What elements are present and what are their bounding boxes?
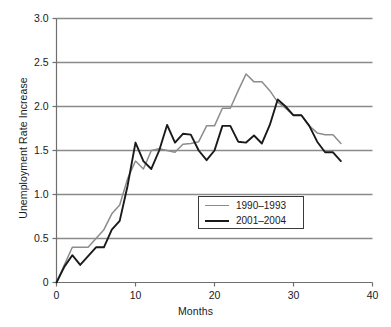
y-tick-label: 0	[15, 276, 49, 288]
x-tick-label: 20	[200, 289, 230, 301]
chart-plot-area	[0, 0, 391, 327]
legend-label-2001-2004: 2001–2004	[236, 216, 286, 226]
data-series	[57, 74, 341, 283]
x-axis-title: Months	[0, 305, 391, 317]
x-tick-label: 30	[279, 289, 309, 301]
chart-legend: 1990–1993 2001–2004	[198, 196, 304, 229]
series-line-1990-1993	[57, 74, 341, 283]
unemployment-rate-chart: Unemployment Rate Increase Months 010203…	[0, 0, 391, 327]
y-tick-label: 2.5	[15, 56, 49, 68]
x-tick-label: 10	[121, 289, 151, 301]
legend-item-2001-2004: 2001–2004	[199, 213, 305, 228]
y-tick-label: 0.5	[15, 232, 49, 244]
legend-line-swatch-black	[205, 220, 229, 222]
y-tick-label: 3.0	[15, 12, 49, 24]
y-tick-label: 2.0	[15, 100, 49, 112]
y-tick-label: 1.0	[15, 188, 49, 200]
x-tick-label: 0	[42, 289, 72, 301]
legend-item-1990-1993: 1990–1993	[199, 198, 305, 213]
legend-line-swatch-gray	[205, 205, 229, 206]
legend-label-1990-1993: 1990–1993	[236, 201, 286, 211]
series-line-2001-2004	[57, 99, 341, 282]
x-tick-label: 40	[358, 289, 388, 301]
y-tick-label: 1.5	[15, 144, 49, 156]
